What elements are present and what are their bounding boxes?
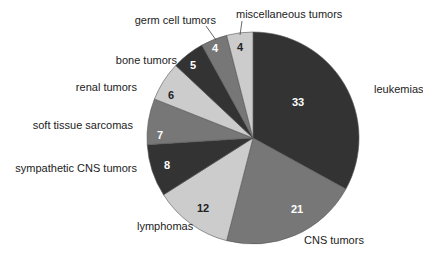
slice-label: bone tumors: [116, 54, 178, 66]
slice-label: sympathetic CNS tumors: [15, 162, 137, 174]
slice-value: 33: [292, 96, 304, 108]
slice-label: miscellaneous tumors: [236, 8, 343, 20]
slice-label: soft tissue sarcomas: [33, 119, 134, 131]
slice-value: 4: [212, 42, 219, 54]
slice-label: lymphomas: [137, 220, 194, 232]
slice-label: CNS tumors: [304, 234, 364, 246]
pie-slices: [147, 32, 359, 244]
slice-label: renal tumors: [76, 81, 138, 93]
slice-value: 8: [164, 159, 170, 171]
slice-label: germ cell tumors: [135, 14, 217, 26]
slice-value: 4: [237, 41, 244, 53]
slice-value: 6: [168, 89, 174, 101]
slice-value: 12: [197, 202, 209, 214]
slice-value: 5: [190, 59, 196, 71]
leader-line: [206, 26, 216, 40]
slice-label: leukemias: [374, 83, 423, 95]
pie-chart: 332112876544 leukemiasCNS tumorslymphoma…: [0, 0, 423, 256]
slice-value: 21: [291, 203, 303, 215]
slice-value: 7: [157, 129, 163, 141]
